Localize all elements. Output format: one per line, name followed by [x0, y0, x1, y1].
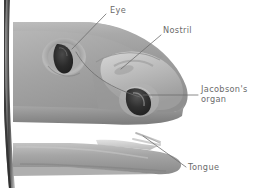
label-jacobsons-organ: Jacobson's organ	[201, 85, 259, 104]
snake-head-anatomy-figure: Eye Nostril Jacobson's organ Tongue	[0, 0, 262, 188]
label-nostril: Nostril	[163, 26, 192, 36]
label-jacobsons-organ-line2: organ	[201, 95, 259, 105]
snake-head-body	[13, 22, 188, 125]
page-edge-left	[0, 0, 4, 188]
label-tongue: Tongue	[188, 163, 219, 173]
jacobsons-organ-region	[119, 83, 159, 117]
label-eye: Eye	[110, 6, 126, 16]
